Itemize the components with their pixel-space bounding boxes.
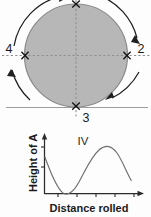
arrowhead-left bbox=[7, 69, 16, 77]
graph-y-axis-arrowhead bbox=[42, 133, 47, 140]
graph-panel-label: IV bbox=[78, 135, 89, 147]
physics-figure: 4 2 3 1 IV Height of A bbox=[0, 0, 151, 217]
marker-label-4: 4 bbox=[6, 42, 13, 56]
graph-x-axis-arrowhead bbox=[138, 191, 145, 196]
rotation-arc-bottom-left bbox=[12, 70, 30, 100]
marker-label-3: 3 bbox=[83, 111, 90, 125]
height-graph: IV Height of A Distance rolled bbox=[27, 133, 144, 214]
wheel-diagram: 4 2 3 1 bbox=[2, 0, 150, 125]
marker-label-2: 2 bbox=[138, 42, 145, 56]
graph-y-axis-label: Height of A bbox=[27, 134, 39, 192]
height-curve bbox=[45, 146, 132, 194]
graph-x-axis-label: Distance rolled bbox=[50, 202, 129, 214]
marker-label-1: 1 bbox=[81, 0, 88, 2]
arrowhead-top bbox=[59, 0, 68, 2]
